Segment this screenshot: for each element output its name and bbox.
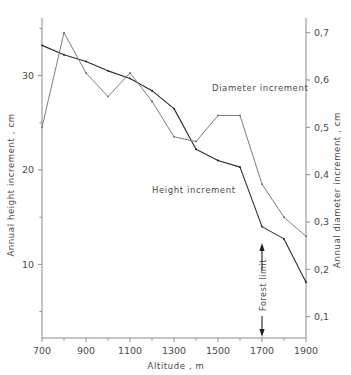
- series-label-height-increment: Height increment: [152, 185, 236, 195]
- data-point: [217, 115, 219, 117]
- data-point: [63, 54, 65, 56]
- data-point: [151, 100, 153, 102]
- data-point: [283, 216, 285, 218]
- right-tick-label: 0,2: [314, 264, 329, 275]
- data-point: [261, 183, 263, 185]
- data-point: [41, 126, 43, 128]
- left-axis-title: Annual height increment , cm: [6, 113, 16, 256]
- data-point: [173, 108, 175, 110]
- x-tick-label: 1500: [206, 345, 230, 356]
- x-axis-ticks: 70090011001300150017001900: [33, 338, 318, 356]
- right-tick-label: 0,7: [314, 27, 329, 38]
- series-line-diameter: [42, 33, 306, 237]
- right-tick-label: 0,5: [314, 122, 329, 133]
- right-tick-label: 0,4: [314, 169, 329, 180]
- data-point: [85, 60, 87, 62]
- x-tick-label: 900: [77, 345, 95, 356]
- annotation-forest-limit: Forest limit: [259, 243, 268, 337]
- data-point: [129, 77, 131, 79]
- right-tick-label: 0,1: [314, 311, 329, 322]
- x-tick-label: 1300: [162, 345, 186, 356]
- x-tick-label: 1100: [118, 345, 142, 356]
- left-tick-label: 20: [22, 164, 34, 175]
- data-point: [151, 90, 153, 92]
- chart-figure: 102030 0,10,20,30,40,50,60,7 70090011001…: [0, 0, 351, 375]
- data-point: [195, 148, 197, 150]
- right-tick-label: 0,6: [314, 74, 329, 85]
- right-axis-ticks: 0,10,20,30,40,50,60,7: [306, 27, 329, 322]
- x-tick-label: 1900: [294, 345, 318, 356]
- data-point: [85, 72, 87, 74]
- data-point: [305, 235, 307, 237]
- data-point: [41, 44, 43, 46]
- x-axis-title: Altitude , m: [148, 361, 205, 371]
- data-point: [239, 115, 241, 117]
- left-axis-ticks: 102030: [22, 28, 42, 311]
- chart-annotations: Forest limit: [259, 243, 268, 337]
- data-point: [305, 281, 307, 283]
- data-point: [283, 238, 285, 240]
- right-axis-title: Annual diameter increment , cm: [332, 112, 342, 268]
- series-line-height: [42, 45, 306, 282]
- data-point: [239, 166, 241, 168]
- right-tick-label: 0,3: [314, 216, 329, 227]
- left-tick-label: 10: [22, 259, 34, 270]
- data-point: [129, 72, 131, 74]
- forest-limit-label: Forest limit: [259, 259, 268, 311]
- x-tick-label: 700: [33, 345, 51, 356]
- arrow-down-icon: [259, 329, 264, 337]
- data-point: [261, 226, 263, 228]
- data-point: [195, 141, 197, 143]
- arrow-up-icon: [259, 243, 264, 251]
- data-point: [217, 160, 219, 162]
- x-tick-label: 1700: [250, 345, 274, 356]
- data-point: [173, 136, 175, 138]
- data-point: [63, 32, 65, 34]
- left-tick-label: 30: [22, 70, 34, 81]
- data-point: [107, 70, 109, 72]
- data-series: [41, 32, 307, 284]
- series-label-diameter-increment: Diameter increment: [212, 83, 308, 93]
- increment-vs-altitude-chart: 102030 0,10,20,30,40,50,60,7 70090011001…: [0, 0, 351, 375]
- data-point: [107, 96, 109, 98]
